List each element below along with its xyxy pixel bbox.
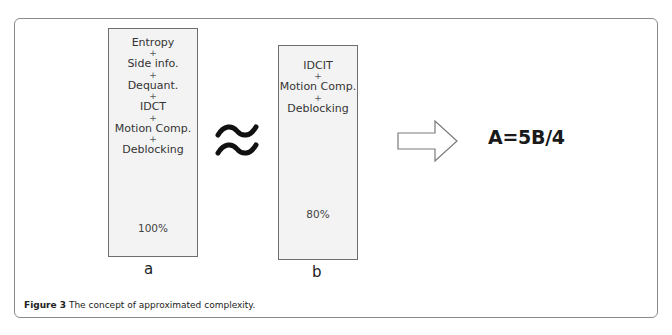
figure-caption: Figure 3 The concept of approximated com…	[24, 300, 255, 310]
formula: A=5B/4	[488, 126, 565, 148]
box-a-item-deblocking: Deblocking	[109, 144, 197, 156]
box-b: IDCIT + Motion Comp. + Deblocking 80%	[278, 45, 358, 260]
box-a-item-side-info: Side info.	[109, 58, 197, 70]
box-a: Entropy + Side info. + Dequant. + IDCT +…	[108, 28, 198, 257]
caption-text: The concept of approximated complexity.	[66, 300, 255, 310]
box-b-item-deblocking: Deblocking	[279, 103, 357, 115]
caption-label: Figure 3	[24, 300, 66, 310]
box-a-label: a	[144, 260, 153, 278]
box-b-label: b	[312, 263, 322, 281]
box-a-percentage: 100%	[109, 222, 197, 234]
box-a-item-idct: IDCT	[109, 101, 197, 113]
right-arrow-icon	[397, 120, 459, 162]
box-b-item-motion-comp: Motion Comp.	[279, 81, 357, 93]
box-b-percentage: 80%	[279, 208, 357, 220]
approx-equal-icon	[214, 118, 260, 164]
